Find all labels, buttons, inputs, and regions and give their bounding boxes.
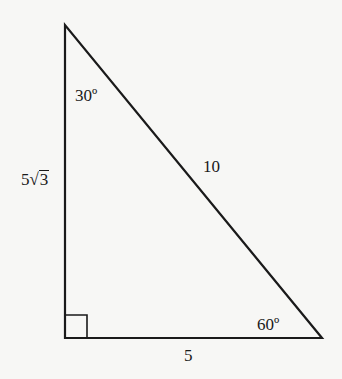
triangle-outline xyxy=(65,25,322,338)
right-angle-marker xyxy=(65,315,87,338)
triangle-figure xyxy=(0,0,342,379)
base-label: 5 xyxy=(184,347,193,364)
radical-symbol: √ xyxy=(30,170,39,189)
angle-label-60: 60º xyxy=(257,316,279,333)
vertical-side-label: 5√3 xyxy=(21,170,49,188)
angle-label-30: 30º xyxy=(75,87,97,104)
hypotenuse-label: 10 xyxy=(203,158,220,175)
radicand: 3 xyxy=(39,170,50,188)
triangle-diagram: 30º 10 5√3 60º 5 xyxy=(0,0,342,379)
vertical-side-coefficient: 5 xyxy=(21,170,30,189)
square-root: √3 xyxy=(30,170,50,188)
